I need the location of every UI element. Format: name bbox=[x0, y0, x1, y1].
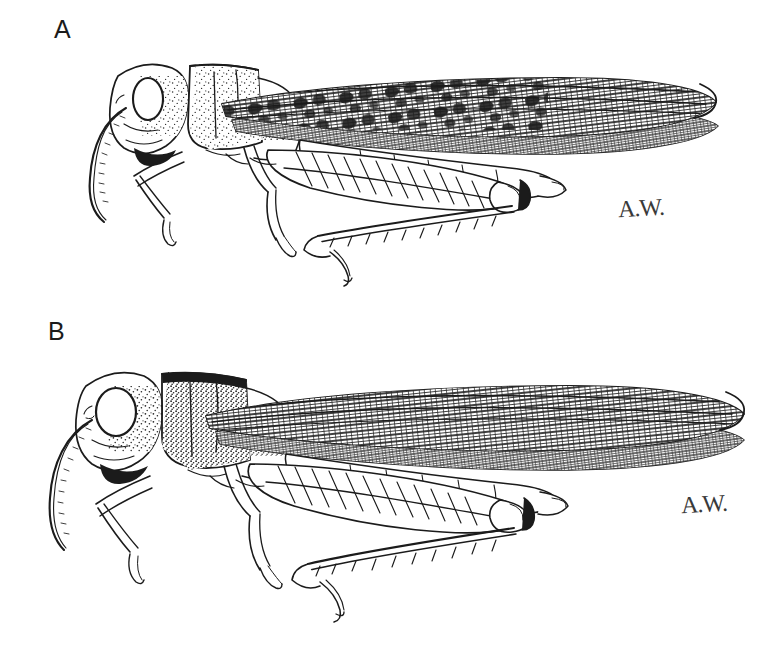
grasshopper-drawing-a bbox=[0, 0, 776, 300]
cerci-a bbox=[538, 176, 566, 197]
compound-eye-b bbox=[96, 388, 136, 436]
figure-panel-a: A A.W. bbox=[0, 0, 776, 300]
fore-leg-b bbox=[96, 476, 152, 584]
hind-tarsus-a bbox=[304, 236, 330, 257]
cerci-b bbox=[538, 492, 568, 515]
illustration-plate: A A.W. bbox=[0, 0, 776, 651]
fore-leg-a bbox=[134, 152, 184, 246]
specimen-b-body bbox=[50, 368, 752, 622]
mandible-b bbox=[100, 464, 148, 484]
antenna-a bbox=[90, 108, 126, 222]
hind-tibia-b bbox=[292, 528, 516, 622]
hind-femur-a bbox=[267, 150, 530, 212]
antenna-b bbox=[50, 420, 92, 550]
hind-tibia-a bbox=[304, 206, 514, 286]
sternum-a bbox=[206, 150, 276, 164]
tegmen-mottling-a bbox=[218, 74, 548, 130]
figure-panel-b: B A.W. bbox=[0, 300, 776, 651]
head-a bbox=[110, 64, 190, 166]
compound-eye-a bbox=[133, 78, 163, 120]
specimen-a-body bbox=[90, 60, 724, 286]
grasshopper-drawing-b bbox=[0, 300, 776, 651]
head-b bbox=[76, 373, 164, 484]
